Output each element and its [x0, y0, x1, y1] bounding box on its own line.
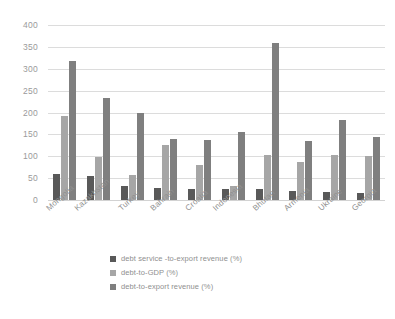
bar-group [217, 25, 251, 200]
y-tick-label: 400 [23, 20, 38, 30]
bar-group [149, 25, 183, 200]
plot-area [48, 25, 385, 200]
y-axis: 050100150200250300350400 [0, 25, 44, 200]
bar [272, 43, 279, 200]
bar [69, 61, 76, 200]
x-tick: Georgia [351, 200, 385, 255]
bar [137, 113, 144, 200]
x-axis-category-labels: MongoliaKazakhstanTurkeyBahrainCroatiaIn… [48, 200, 385, 255]
bar-group [115, 25, 149, 200]
legend-label: debt-to-export revenue (%) [121, 282, 213, 291]
x-tick: Indonesia [217, 200, 251, 255]
bar-group [48, 25, 82, 200]
y-tick-label: 150 [23, 129, 38, 139]
legend-swatch-icon [110, 256, 116, 262]
y-tick-label: 350 [23, 42, 38, 52]
y-tick-label: 50 [28, 173, 38, 183]
x-tick: Armenia [284, 200, 318, 255]
y-tick-label: 200 [23, 108, 38, 118]
y-tick-label: 250 [23, 86, 38, 96]
legend-label: debt service -to-export revenue (%) [121, 254, 242, 263]
x-tick: Croatia [183, 200, 217, 255]
legend-item[interactable]: debt-to-GDP (%) [110, 268, 285, 277]
chart-legend: debt service -to-export revenue (%)debt-… [0, 254, 395, 291]
x-tick: Ukraine [318, 200, 352, 255]
y-tick-label: 0 [33, 195, 38, 205]
legend-label: debt-to-GDP (%) [121, 268, 178, 277]
legend-swatch-icon [110, 270, 116, 276]
bar-group [250, 25, 284, 200]
x-tick: Kazakhstan [82, 200, 116, 255]
bar-group [284, 25, 318, 200]
bar-chart: 050100150200250300350400 MongoliaKazakhs… [0, 0, 395, 319]
bar-group [351, 25, 385, 200]
y-tick-label: 300 [23, 64, 38, 74]
bar-group [318, 25, 352, 200]
y-tick-label: 100 [23, 151, 38, 161]
bar-groups [48, 25, 385, 200]
bar-group [183, 25, 217, 200]
legend-item[interactable]: debt service -to-export revenue (%) [110, 254, 285, 263]
legend-item[interactable]: debt-to-export revenue (%) [110, 282, 285, 291]
bar-group [82, 25, 116, 200]
legend-swatch-icon [110, 284, 116, 290]
x-tick: Turkey [115, 200, 149, 255]
x-tick: Bahrain [149, 200, 183, 255]
x-tick: Bhutan [250, 200, 284, 255]
